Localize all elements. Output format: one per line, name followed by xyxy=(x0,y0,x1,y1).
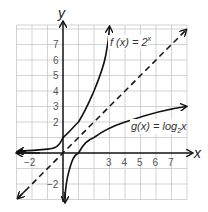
x-axis-label: x xyxy=(193,145,202,161)
g-label: g(x) = log2x xyxy=(130,119,187,134)
x-tick-4: 4 xyxy=(122,157,128,168)
x-tick-neg2: −2 xyxy=(24,157,36,168)
f-label-exponent: x xyxy=(147,35,152,42)
g-label-main: g(x) = log xyxy=(131,120,178,132)
y-tick-neg2: −2 xyxy=(47,179,59,190)
f-curve xyxy=(19,27,110,151)
y-tick-5: 5 xyxy=(53,70,59,81)
y-tick-6: 6 xyxy=(53,55,59,66)
f-label-main: f (x) = 2 xyxy=(110,36,148,48)
y-tick-7: 7 xyxy=(53,39,59,50)
f-label: f (x) = 2x xyxy=(108,35,152,49)
x-tick-5: 5 xyxy=(137,157,143,168)
y-tick-2: 2 xyxy=(53,117,59,128)
y-axis-label: y xyxy=(57,5,66,21)
x-tick-6: 6 xyxy=(153,157,159,168)
x-tick-7: 7 xyxy=(168,157,174,168)
identity-line-start-arrow xyxy=(18,190,26,198)
y-tick-3: 3 xyxy=(53,101,59,112)
x-tick-3: 3 xyxy=(106,157,112,168)
svg-text:f (x) = 2x: f (x) = 2x xyxy=(110,35,152,48)
chart: y x 7 6 5 4 3 2 −2 −2 3 4 5 6 7 f (x) = … xyxy=(0,0,208,212)
y-tick-4: 4 xyxy=(53,86,59,97)
identity-line xyxy=(18,30,186,198)
g-label-tail: x xyxy=(180,120,187,132)
